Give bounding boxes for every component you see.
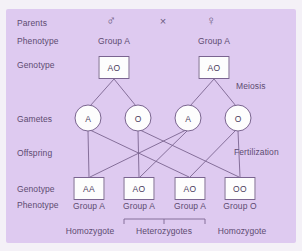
offspring-genotype-box-2[interactable]: AO [124,177,155,200]
zygosity-label-left: Homozygote [66,226,115,236]
gamete-circle-2[interactable]: O [125,105,152,132]
offspring-genotype-box-1[interactable]: AA [74,177,105,200]
meiosis-label: Meiosis [236,81,266,91]
zygosity-label-right: Homozygote [218,226,267,236]
genetics-inheritance-diagram: Parents Phenotype Genotype Gametes Offsp… [0,0,302,251]
zygosity-label-middle: Heterozygotes [136,226,192,236]
row-label-gametes: Gametes [17,114,52,124]
cross-symbol-icon: × [160,15,166,28]
parent-genotype-box-female[interactable]: AO [199,56,230,79]
offspring-phenotype-3: Group A [174,201,206,211]
offspring-genotype-box-3[interactable]: AO [175,177,206,200]
female-symbol-icon: ♀ [206,14,216,27]
male-symbol-icon: ♂ [106,14,116,27]
row-label-genotype-top: Genotype [17,60,55,70]
offspring-phenotype-1: Group A [73,201,105,211]
gamete-circle-1[interactable]: A [75,105,102,132]
parent-phenotype-female: Group A [198,36,230,46]
row-label-phenotype-top: Phenotype [17,36,59,46]
offspring-genotype-box-4[interactable]: OO [225,177,256,200]
offspring-phenotype-4: Group O [223,201,256,211]
offspring-phenotype-2: Group A [123,201,155,211]
row-label-genotype-bottom: Genotype [17,184,55,194]
gamete-circle-3[interactable]: A [175,105,202,132]
row-label-phenotype-bottom: Phenotype [17,200,59,210]
row-label-parents: Parents [17,18,47,28]
parent-genotype-box-male[interactable]: AO [99,56,130,79]
gamete-circle-4[interactable]: O [225,105,252,132]
fertilization-label: Fertilization [234,147,279,157]
row-label-offspring: Offspring [17,148,52,158]
parent-phenotype-male: Group A [98,36,130,46]
